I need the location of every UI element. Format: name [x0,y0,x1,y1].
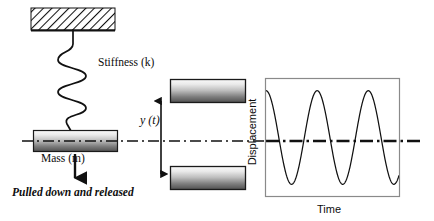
excitation-caption: Pulled down and released [12,186,134,198]
stiffness-label: Stiffness (k) [98,56,154,68]
displacement-variable-label: y (t) [140,113,160,128]
mass-block-displaced-down [170,166,246,190]
mass-label: Mass (m) [41,152,85,164]
displacement-waveform [266,91,399,185]
upper-block-fill [170,79,246,103]
chart-y-axis-label: Displacement [246,99,258,166]
lower-block-fill [170,166,246,190]
chart-border [266,79,400,197]
helical-spring [58,30,86,131]
chart-x-axis-label: Time [317,203,341,215]
chart-frame [266,79,400,197]
waveform-line [266,91,399,185]
ceiling-support [31,8,115,31]
mass-block-displaced-up [170,79,246,103]
ceiling-hatch-fill [31,8,115,30]
spring-coil-path [58,30,86,131]
spring-mass-vibration-figure: Stiffness (k) Mass (m) y (t) Pulled down… [0,0,434,221]
